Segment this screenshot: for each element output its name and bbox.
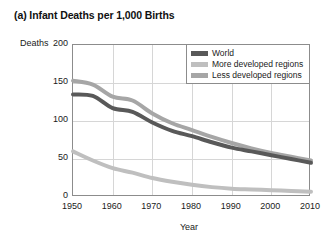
y-axis-tick-label: 200 <box>38 38 68 48</box>
chart-legend: WorldMore developed regionsLess develope… <box>186 44 310 84</box>
legend-item: More developed regions <box>191 59 305 69</box>
y-axis-tick-label: 100 <box>38 114 68 124</box>
legend-item-label: World <box>212 48 234 58</box>
x-axis-tick-label: 2000 <box>250 201 290 211</box>
x-axis-tick-label: 1980 <box>171 201 211 211</box>
y-axis-tick-label: 50 <box>38 152 68 162</box>
y-axis-tick-label: 150 <box>38 76 68 86</box>
legend-swatch <box>191 62 208 67</box>
legend-item: Less developed regions <box>191 70 305 80</box>
figure-panel: (a) Infant Deaths per 1,000 Births Death… <box>0 0 328 246</box>
legend-swatch <box>191 51 208 56</box>
x-axis-title: Year <box>0 222 328 232</box>
legend-item: World <box>191 48 305 58</box>
x-axis-tick-label: 2010 <box>290 201 328 211</box>
x-axis-tick-label: 1970 <box>131 201 171 211</box>
legend-item-label: Less developed regions <box>212 70 302 80</box>
legend-swatch <box>191 73 208 78</box>
x-axis-tick-label: 1950 <box>52 201 92 211</box>
x-axis-tick-label: 1990 <box>211 201 251 211</box>
series-line <box>73 81 311 161</box>
legend-item-label: More developed regions <box>212 59 303 69</box>
x-axis-tick-label: 1960 <box>92 201 132 211</box>
y-axis-tick-label: 0 <box>38 190 68 200</box>
page-title: (a) Infant Deaths per 1,000 Births <box>14 9 175 21</box>
